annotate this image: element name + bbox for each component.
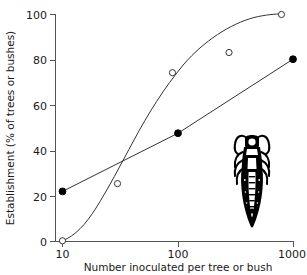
chart-plot-area: 100 80 60 40 20 0 10 100 1000 Number ino… bbox=[0, 0, 307, 275]
y-axis-title: Establishment (% of trees or bushes) bbox=[4, 31, 16, 225]
insect-terminal-spot-icon bbox=[249, 208, 254, 213]
insect-fleck-right-1-icon bbox=[258, 179, 260, 181]
insect-head-highlight-icon bbox=[248, 139, 255, 146]
y-tick-label-0: 0 bbox=[40, 236, 47, 249]
insect-eye-right-icon bbox=[256, 139, 259, 142]
x-tick-labels: 10 100 1000 bbox=[56, 248, 307, 261]
insect-illustration-icon bbox=[235, 135, 270, 228]
insect-fleck-left-3-icon bbox=[246, 202, 248, 204]
insect-segment-3-icon bbox=[249, 188, 255, 189]
insect-fleck-right-2-icon bbox=[258, 191, 260, 193]
x-tick-label-1000: 1000 bbox=[278, 248, 306, 261]
x-tick-label-100: 100 bbox=[168, 248, 189, 261]
data-point-filled-2 bbox=[175, 130, 182, 137]
y-tick-label-100: 100 bbox=[26, 9, 47, 22]
insect-segment-6-icon bbox=[250, 206, 255, 207]
insect-prothorax-highlight-icon bbox=[246, 149, 258, 155]
x-tick-marks bbox=[63, 242, 294, 248]
data-point-open-4 bbox=[226, 49, 232, 55]
data-point-open-1 bbox=[59, 238, 65, 244]
y-tick-label-20: 20 bbox=[33, 191, 47, 204]
insect-thorax-highlight-icon bbox=[248, 158, 257, 169]
data-point-filled-1 bbox=[59, 188, 66, 195]
y-tick-label-60: 60 bbox=[33, 100, 47, 113]
x-axis-title: Number inoculated per tree or bush bbox=[84, 261, 273, 273]
y-tick-marks bbox=[50, 15, 56, 242]
insect-segment-2-icon bbox=[249, 182, 256, 183]
data-point-open-3 bbox=[169, 70, 175, 76]
data-point-open-2 bbox=[114, 181, 120, 187]
chart-figure: 100 80 60 40 20 0 10 100 1000 Number ino… bbox=[0, 0, 307, 275]
insect-fleck-left-2-icon bbox=[245, 191, 247, 193]
data-point-open-5 bbox=[278, 11, 284, 17]
insect-segment-5-icon bbox=[249, 200, 254, 201]
y-tick-label-40: 40 bbox=[33, 145, 47, 158]
insect-fleck-left-1-icon bbox=[244, 179, 246, 181]
insect-fleck-right-3-icon bbox=[257, 202, 259, 204]
x-tick-label-10: 10 bbox=[56, 248, 70, 261]
y-tick-label-80: 80 bbox=[33, 54, 47, 67]
insect-segment-4-icon bbox=[249, 194, 255, 195]
insect-eye-left-icon bbox=[245, 139, 248, 142]
data-point-filled-3 bbox=[290, 56, 297, 63]
insect-segment-1-icon bbox=[249, 176, 255, 177]
y-tick-labels: 100 80 60 40 20 0 bbox=[26, 9, 47, 249]
